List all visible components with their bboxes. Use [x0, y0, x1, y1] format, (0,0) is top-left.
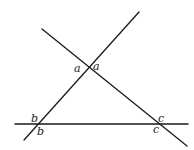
angle-label-a-right: a: [93, 60, 100, 73]
falling-line: [42, 29, 187, 146]
triangle-diagram: a a b b c c: [0, 0, 194, 150]
angle-label-b-lower: b: [37, 125, 44, 138]
angle-label-b-upper: b: [31, 112, 38, 125]
angle-label-a-left: a: [74, 62, 81, 75]
angle-label-c-lower: c: [153, 123, 159, 136]
rising-line: [24, 12, 139, 140]
